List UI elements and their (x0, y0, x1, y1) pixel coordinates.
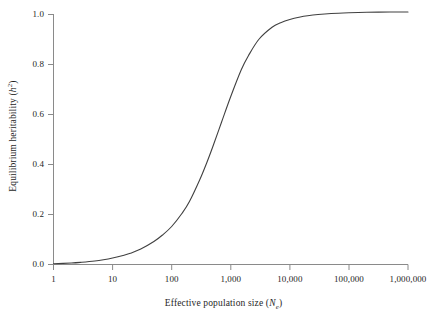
y-axis-title-suffix: ) (8, 80, 18, 83)
chart-figure: 1.0 0.8 0.6 0.4 0.2 0.0 1 10 100 1,000 1… (0, 0, 447, 316)
plot-canvas (0, 0, 447, 316)
x-tick-marks (54, 265, 409, 271)
x-tick-label-1000: 1,000 (220, 274, 241, 284)
x-tick-label-10: 10 (108, 274, 117, 284)
x-tick-label-100000: 100,000 (334, 274, 364, 284)
y-axis-title-superscript: 2 (6, 84, 13, 88)
x-axis-title-prefix: Effective population size ( (165, 298, 269, 308)
x-tick-label-10000: 10,000 (277, 274, 302, 284)
x-tick-label-1000000: 1,000,000 (390, 274, 427, 284)
y-axis-title: Equilibrium heritability (h2) (2, 0, 22, 272)
y-axis-title-symbol: h (8, 87, 18, 92)
heritability-curve (54, 12, 409, 264)
y-axis-title-prefix: Equilibrium heritability ( (8, 92, 18, 191)
x-tick-label-100: 100 (165, 274, 179, 284)
y-tick-marks (48, 15, 54, 265)
x-tick-label-1: 1 (51, 274, 56, 284)
x-axis-title: Effective population size (Ne) (0, 298, 447, 310)
x-axis-title-suffix: ) (279, 298, 282, 308)
